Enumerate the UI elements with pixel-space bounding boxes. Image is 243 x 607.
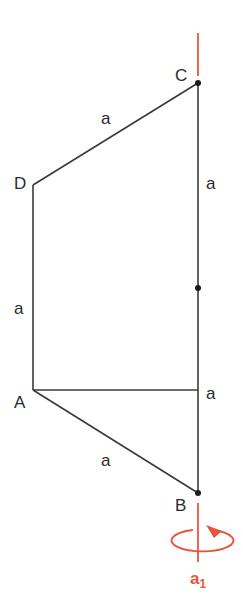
edge-a-b bbox=[33, 390, 198, 493]
rotation-arrow-icon bbox=[172, 530, 234, 551]
point-c bbox=[195, 80, 201, 86]
point-midpoint bbox=[195, 285, 201, 291]
edge-label-ab: a bbox=[101, 451, 111, 470]
edge-label-mb: a bbox=[206, 384, 216, 403]
axis-label: a1 bbox=[190, 569, 206, 591]
vertex-label-a: A bbox=[14, 393, 26, 412]
edge-label-cm: a bbox=[206, 174, 216, 193]
axis-label-subscript: 1 bbox=[199, 577, 206, 591]
edge-c-d bbox=[33, 83, 198, 185]
rotation-arrowhead-icon bbox=[206, 525, 222, 538]
vertex-label-b: B bbox=[175, 496, 186, 515]
edge-label-da: a bbox=[14, 299, 24, 318]
vertex-label-d: D bbox=[14, 174, 26, 193]
edge-label-cd: a bbox=[101, 109, 111, 128]
diagram-canvas: C D A B a a a a a a1 bbox=[0, 0, 243, 607]
vertex-label-c: C bbox=[175, 66, 187, 85]
point-b bbox=[195, 490, 201, 496]
